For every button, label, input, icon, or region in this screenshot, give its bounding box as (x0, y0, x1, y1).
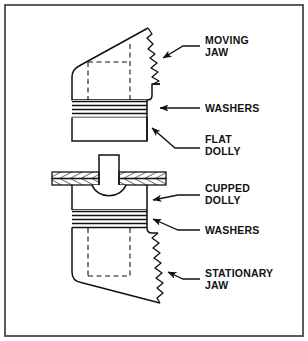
label-flat-dolly-line1: FLAT (205, 133, 232, 145)
diagram-canvas: MOVING JAW WASHERS FLAT DOLLY CUPPED DOL… (0, 0, 308, 341)
sheet-metal-right (119, 172, 166, 185)
diagram-figure: MOVING JAW WASHERS FLAT DOLLY CUPPED DOL… (0, 0, 308, 341)
label-stationary-jaw-line1: STATIONARY (205, 267, 273, 279)
label-flat-dolly-line2: DOLLY (205, 145, 241, 157)
sheet-metal-left (52, 172, 99, 185)
washers-bottom-stack (72, 210, 147, 228)
rivet-stem (99, 155, 119, 190)
label-moving-jaw-line1: MOVING (205, 34, 249, 46)
label-moving-jaw-line2: JAW (205, 46, 228, 58)
label-washers-bottom: WASHERS (205, 224, 260, 236)
label-cupped-dolly-line2: DOLLY (205, 194, 241, 206)
label-cupped-dolly-line1: CUPPED (205, 182, 250, 194)
washers-top-stack (72, 100, 147, 118)
flat-dolly-block (72, 118, 147, 142)
label-washers-top: WASHERS (205, 102, 260, 114)
label-stationary-jaw-line2: JAW (205, 279, 228, 291)
